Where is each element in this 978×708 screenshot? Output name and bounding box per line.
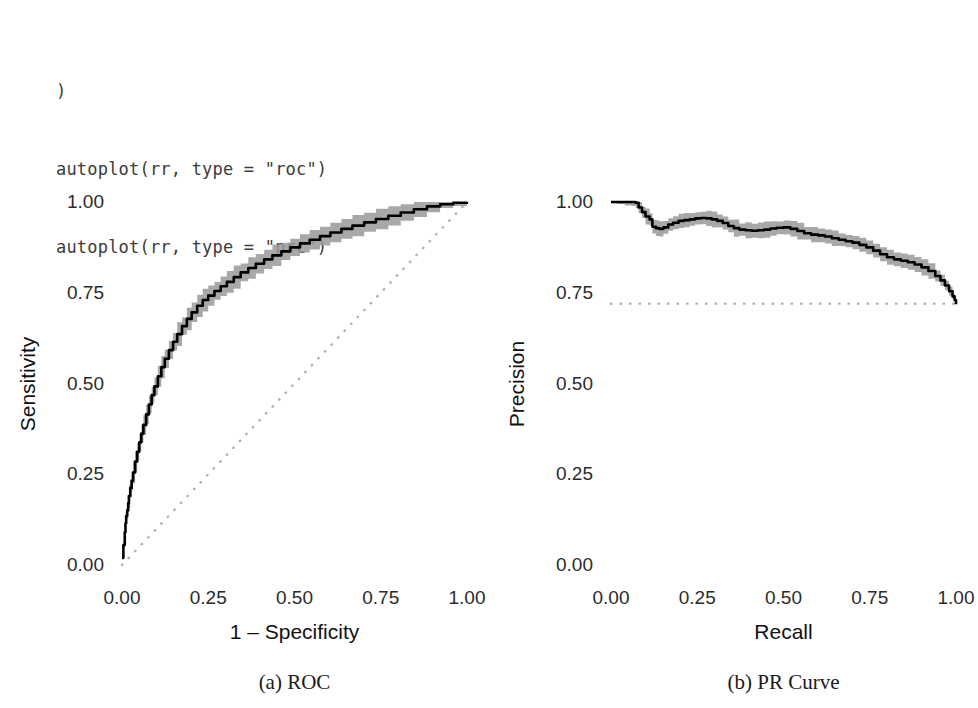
prc-x-tick-0-50: 0.50 bbox=[765, 587, 802, 609]
prc-curve-line bbox=[611, 202, 956, 304]
prc-x-tick-0-25: 0.25 bbox=[679, 587, 716, 609]
prc-plot-svg bbox=[489, 150, 978, 708]
prc-confidence-band bbox=[611, 202, 956, 306]
roc-x-tick-0-25: 0.25 bbox=[190, 587, 227, 609]
prc-y-tick-0-75: 0.75 bbox=[489, 282, 593, 304]
roc-y-tick-0-00: 0.00 bbox=[0, 554, 104, 576]
prc-y-tick-0-25: 0.25 bbox=[489, 463, 593, 485]
prc-x-tick-0-75: 0.75 bbox=[851, 587, 888, 609]
panel-prc: Precision Recall (b) PR Curve 0.000.250.… bbox=[489, 150, 978, 708]
subcaption-roc: (a) ROC bbox=[259, 670, 331, 695]
prc-y-tick-1-00: 1.00 bbox=[489, 191, 593, 213]
prc-x-tick-0-00: 0.00 bbox=[593, 587, 630, 609]
roc-y-tick-1-00: 1.00 bbox=[0, 191, 104, 213]
panel-roc: Sensitivity 1 – Specificity (a) ROC 0.00… bbox=[0, 150, 489, 708]
prc-x-tick-1-00: 1.00 bbox=[938, 587, 975, 609]
roc-x-tick-0-00: 0.00 bbox=[104, 587, 141, 609]
prc-x-axis-title: Recall bbox=[754, 620, 812, 644]
roc-x-axis-title: 1 – Specificity bbox=[230, 620, 360, 644]
code-line-1: ) bbox=[56, 78, 327, 104]
roc-x-tick-0-75: 0.75 bbox=[362, 587, 399, 609]
roc-x-tick-0-50: 0.50 bbox=[276, 587, 313, 609]
roc-chance-diagonal bbox=[122, 202, 467, 565]
subcaption-prc: (b) PR Curve bbox=[728, 670, 840, 695]
roc-y-tick-0-50: 0.50 bbox=[0, 373, 104, 395]
prc-y-tick-0-00: 0.00 bbox=[489, 554, 593, 576]
prc-y-tick-0-50: 0.50 bbox=[489, 373, 593, 395]
roc-y-tick-0-25: 0.25 bbox=[0, 463, 104, 485]
figure-container: Sensitivity 1 – Specificity (a) ROC 0.00… bbox=[0, 150, 978, 708]
roc-confidence-band bbox=[122, 202, 467, 560]
roc-y-tick-0-75: 0.75 bbox=[0, 282, 104, 304]
roc-x-tick-1-00: 1.00 bbox=[449, 587, 486, 609]
screenshot-root: ) autoplot(rr, type = "roc") autoplot(rr… bbox=[0, 0, 978, 708]
